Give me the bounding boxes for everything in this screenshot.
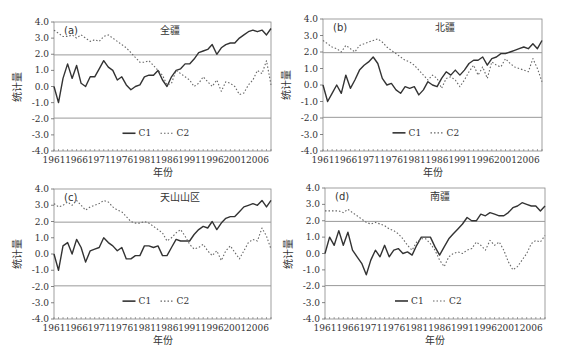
panel-label: (d) — [335, 191, 349, 202]
y-tick-label: -1.0 — [32, 98, 50, 108]
y-tick-label: 3.0 — [35, 200, 50, 210]
x-tick-label: 1976 — [110, 323, 133, 333]
x-tick-label: 1981 — [133, 155, 156, 165]
x-tick-label: 2001 — [223, 155, 246, 165]
x-tick-label: 1991 — [178, 323, 201, 333]
x-tick-label: 1966 — [65, 323, 88, 333]
x-tick-label: 1961 — [43, 155, 66, 165]
series-line-c2 — [54, 200, 271, 260]
y-tick-label: -2.0 — [32, 114, 50, 124]
panel-label: (a) — [64, 25, 78, 36]
plot-frame — [54, 22, 271, 151]
x-tick-label: 1991 — [448, 155, 471, 165]
y-tick-label: 0.0 — [304, 80, 319, 90]
chart-title: 全疆 — [160, 24, 180, 36]
x-tick-label: 1976 — [110, 155, 133, 165]
y-tick-label: 4.0 — [35, 17, 50, 27]
x-tick-label: 2006 — [246, 155, 269, 165]
y-tick-label: -3.0 — [32, 130, 50, 140]
x-tick-label: 1971 — [88, 155, 111, 165]
x-tick-label: 1981 — [405, 323, 428, 333]
y-tick-label: -3.0 — [301, 130, 319, 140]
series-line-c2 — [323, 39, 542, 89]
series-line-c1 — [54, 29, 271, 103]
y-axis-label: 统计量 — [11, 72, 23, 102]
x-tick-label: 1996 — [471, 155, 494, 165]
x-tick-label: 1966 — [334, 155, 357, 165]
panel-label: (c) — [64, 192, 77, 203]
y-tick-label: 4.0 — [304, 14, 319, 24]
x-tick-label: 2006 — [520, 323, 543, 333]
legend-label-c2: C2 — [447, 128, 460, 138]
y-tick-label: 2.0 — [304, 47, 319, 57]
y-axis-label: 统计量 — [282, 239, 294, 269]
x-tick-label: 1961 — [43, 323, 66, 333]
series-line-c1 — [54, 200, 271, 270]
x-tick-label: 1996 — [474, 323, 497, 333]
y-tick-label: 2.0 — [35, 217, 50, 227]
x-axis-label: 年份 — [423, 166, 443, 178]
x-tick-label: 1986 — [156, 323, 179, 333]
series-line-c1 — [325, 203, 545, 275]
y-tick-label: 0.0 — [35, 82, 50, 92]
y-tick-label: -1.0 — [32, 265, 50, 275]
series-line-c1 — [323, 41, 542, 102]
y-tick-label: 2.0 — [35, 49, 50, 59]
chart-figure: 4.03.02.01.00.0-1.0-2.0-3.0-4.0196119661… — [0, 0, 561, 359]
y-tick-label: 1.0 — [304, 64, 319, 74]
y-tick-label: 1.0 — [306, 232, 321, 242]
chart-title: 天山山区 — [160, 192, 200, 203]
chart-title: 南疆 — [430, 190, 450, 202]
y-tick-label: 4.0 — [306, 183, 321, 193]
series-line-c2 — [325, 209, 545, 270]
x-tick-label: 1971 — [359, 323, 382, 333]
x-tick-label: 1996 — [201, 155, 224, 165]
y-tick-label: -2.0 — [303, 281, 321, 291]
legend-label-c1: C1 — [409, 128, 422, 138]
x-tick-label: 1966 — [336, 323, 359, 333]
legend-label-c1: C1 — [139, 296, 152, 306]
y-tick-label: 0.0 — [306, 249, 321, 259]
y-tick-label: -3.0 — [32, 298, 50, 308]
x-tick-label: 2006 — [517, 155, 540, 165]
y-tick-label: -1.0 — [303, 265, 321, 275]
y-tick-label: 4.0 — [35, 184, 50, 194]
y-tick-label: 0.0 — [35, 249, 50, 259]
y-tick-label: 1.0 — [35, 233, 50, 243]
y-tick-label: 2.0 — [306, 216, 321, 226]
x-tick-label: 1996 — [201, 323, 224, 333]
x-tick-label: 1991 — [178, 155, 201, 165]
x-axis-label: 年份 — [153, 334, 173, 346]
x-tick-label: 1961 — [312, 155, 335, 165]
chart-panel-2: 4.03.02.01.00.0-1.0-2.0-3.0-4.0196119661… — [11, 184, 271, 346]
x-tick-label: 1976 — [380, 155, 403, 165]
legend-label-c1: C1 — [139, 128, 152, 138]
x-tick-label: 1966 — [65, 155, 88, 165]
x-tick-label: 1991 — [451, 323, 474, 333]
y-tick-label: 1.0 — [35, 65, 50, 75]
y-axis-label: 统计量 — [11, 239, 23, 269]
legend-label-c2: C2 — [177, 128, 190, 138]
chart-panel-3: 4.03.02.01.00.0-1.0-2.0-3.0-4.0196119661… — [282, 183, 545, 346]
x-tick-label: 1981 — [403, 155, 426, 165]
x-tick-label: 2001 — [223, 323, 246, 333]
y-tick-label: 3.0 — [304, 31, 319, 41]
y-tick-label: 3.0 — [306, 199, 321, 209]
x-axis-label: 年份 — [153, 166, 173, 178]
x-axis-label: 年份 — [425, 334, 445, 346]
chart-title: 北疆 — [435, 22, 455, 33]
x-tick-label: 2001 — [494, 155, 517, 165]
x-tick-label: 2001 — [497, 323, 520, 333]
x-tick-label: 1976 — [382, 323, 405, 333]
chart-panel-1: 4.03.02.01.00.0-1.0-2.0-3.0-4.0196119661… — [280, 14, 542, 178]
y-tick-label: 3.0 — [35, 33, 50, 43]
panel-label: (b) — [333, 22, 347, 33]
x-tick-label: 1971 — [88, 323, 111, 333]
x-tick-label: 1981 — [133, 323, 156, 333]
chart-panel-0: 4.03.02.01.00.0-1.0-2.0-3.0-4.0196119661… — [11, 17, 271, 178]
x-tick-label: 1986 — [156, 155, 179, 165]
x-tick-label: 2006 — [246, 323, 269, 333]
legend-label-c2: C2 — [449, 296, 462, 306]
x-tick-label: 1986 — [426, 155, 449, 165]
legend-label-c1: C1 — [411, 296, 424, 306]
